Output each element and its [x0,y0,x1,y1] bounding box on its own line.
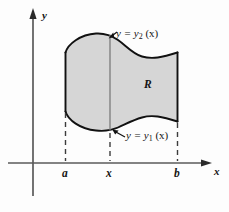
lower-curve-label: y = y1 (x) [126,130,168,143]
lower-curve-leader-arrowhead [112,130,118,135]
region-label: R [144,79,152,91]
x-axis-arrowhead [201,159,212,166]
upper-curve-label-argument: (x) [143,27,159,39]
tick-label-a: a [62,168,68,180]
y-axis-arrowhead [29,8,36,19]
tick-label-x: x [106,168,112,180]
figure-container: y = y2 (x) y = y1 (x) y x a x b R [0,0,229,212]
upper-curve-label-main: y = y [116,27,139,39]
lower-curve-label-argument: (x) [153,129,169,141]
tick-label-b: b [174,168,180,180]
x-axis-label: x [214,166,220,177]
y-axis-label: y [42,10,47,21]
upper-curve-label: y = y2 (x) [116,28,158,41]
lower-curve-label-main: y = y [126,129,149,141]
figure-drawing [0,0,229,212]
